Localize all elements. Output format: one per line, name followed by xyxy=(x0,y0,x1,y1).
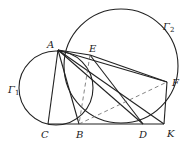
segment-EF xyxy=(90,55,167,82)
dashed-segment-BF xyxy=(79,82,167,124)
segment-AB xyxy=(58,50,79,124)
segment-ED xyxy=(90,55,143,124)
point-label-k: K xyxy=(166,128,175,139)
point-label-c: C xyxy=(41,129,49,140)
geometry-diagram: Γ1Γ2AEFCBDK xyxy=(0,0,187,147)
point-label-f: F xyxy=(171,77,180,88)
segment-AD xyxy=(58,50,143,124)
circles-group xyxy=(19,9,178,125)
point-label-a: A xyxy=(46,39,54,50)
segments-group xyxy=(48,50,167,124)
segment-AC xyxy=(48,50,58,124)
point-label-d: D xyxy=(138,129,147,140)
segment-AK xyxy=(58,50,164,124)
point-label-e: E xyxy=(88,43,97,54)
point-label-b: B xyxy=(75,129,83,140)
segment-AF xyxy=(58,50,167,82)
circle-label-gamma2: Γ2 xyxy=(162,21,174,34)
circle-label-gamma1: Γ1 xyxy=(7,84,19,97)
